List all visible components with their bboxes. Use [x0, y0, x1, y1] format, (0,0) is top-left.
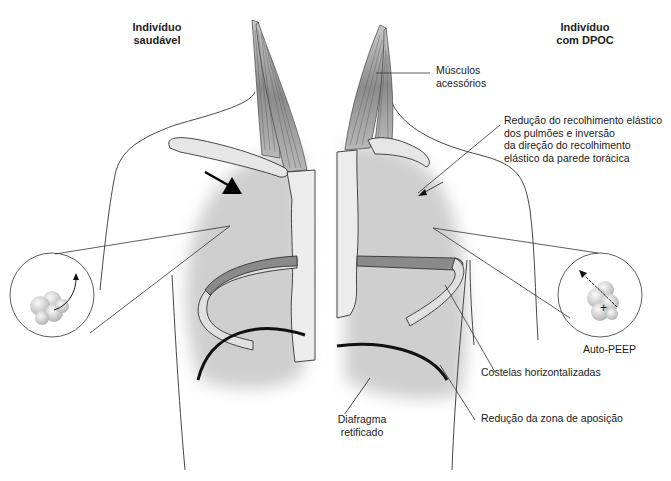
label-line: retificado — [332, 426, 392, 439]
right-title-line2: com DPOC — [540, 34, 630, 47]
label-line: Músculos — [436, 64, 486, 77]
label-line: elástico da parede torácica — [504, 152, 662, 165]
right-panel-title: Indivíduo com DPOC — [540, 21, 630, 47]
apposition-zone-label: Redução da zona de aposição — [481, 412, 623, 425]
left-accessory-muscles — [252, 20, 307, 172]
copd-diagram: Indivíduo saudável Indivíduo com DPOC Mú… — [0, 0, 671, 481]
left-title-line1: Indivíduo — [112, 21, 202, 34]
right-sternum — [337, 150, 358, 318]
right-lung — [345, 144, 467, 399]
accessory-muscles-label: Músculos acessórios — [436, 64, 486, 89]
plus-sign: + — [600, 302, 607, 315]
label-line: dos pulmões e inversão — [504, 127, 662, 140]
label-line: Diafragma — [332, 413, 392, 426]
left-alveolus-icon — [30, 273, 79, 325]
right-alveolus-icon — [579, 270, 619, 321]
left-panel-title: Indivíduo saudável — [112, 21, 202, 47]
left-title-line2: saudável — [112, 34, 202, 47]
right-title-line1: Indivíduo — [540, 21, 630, 34]
diagram-artwork — [0, 0, 671, 481]
auto-peep-label: Auto-PEEP — [583, 343, 636, 356]
flattened-diaphragm-label: Diafragma retificado — [332, 413, 392, 438]
horizontal-ribs-label: Costelas horizontalizadas — [481, 366, 601, 379]
label-line: da direção do recolhimento — [504, 139, 662, 152]
label-line: acessórios — [436, 77, 486, 90]
label-line: Redução do recolhimento elástico — [504, 114, 662, 127]
right-accessory-muscles — [345, 25, 393, 150]
elastic-recoil-label: Redução do recolhimento elástico dos pul… — [504, 114, 662, 164]
